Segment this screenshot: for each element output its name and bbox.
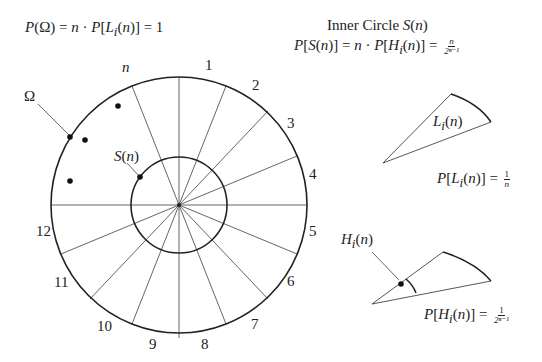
sector-label-3: 3: [287, 116, 295, 131]
omega-leader: [38, 104, 70, 136]
omega-probability-formula: P(Ω) = n · P[Li(n)] = 1: [25, 20, 163, 38]
wedge-L-label: Li(n): [433, 114, 462, 132]
sample-point: [115, 103, 121, 109]
wedge-H-label: Hi(n): [341, 232, 373, 250]
sector-label-n: n: [122, 60, 130, 75]
fraction: n2ⁿ⁻¹: [443, 37, 460, 56]
sector-label-6: 6: [287, 274, 295, 289]
sector-label-10: 10: [97, 319, 112, 334]
inner-circle-title: Inner Circle S(n): [327, 18, 428, 33]
sector-label-1: 1: [205, 58, 213, 73]
wedge-H-probability: P[Hi(n)] = 12ⁿ⁻¹: [424, 306, 510, 325]
sector-label-9: 9: [149, 337, 157, 352]
sector-label-12: 12: [36, 224, 51, 239]
center-point: [177, 203, 181, 207]
sector-label-5: 5: [309, 224, 317, 239]
sector-label-7: 7: [251, 317, 259, 332]
omega-label: Ω: [24, 89, 35, 104]
wedge-H: [372, 252, 491, 304]
wedge-L-probability: P[Li(n)] = 1n: [437, 170, 510, 189]
fraction: 12ⁿ⁻¹: [493, 306, 510, 325]
sample-point: [67, 178, 73, 184]
sector-label-11: 11: [54, 275, 68, 290]
s-label: S(n): [114, 149, 139, 164]
sample-point: [82, 137, 88, 143]
sector-label-8: 8: [201, 337, 209, 352]
s-leader: [127, 163, 139, 176]
sector-label-4: 4: [309, 167, 317, 182]
sector-label-2: 2: [252, 78, 260, 93]
sample-point: [67, 134, 73, 140]
sector-spokes: [51, 77, 307, 338]
fraction: 1n: [504, 170, 511, 189]
s-point: [137, 174, 143, 180]
inner-circle-formula: P[S(n)] = n · P[Hi(n)] = n2ⁿ⁻¹: [294, 37, 460, 56]
